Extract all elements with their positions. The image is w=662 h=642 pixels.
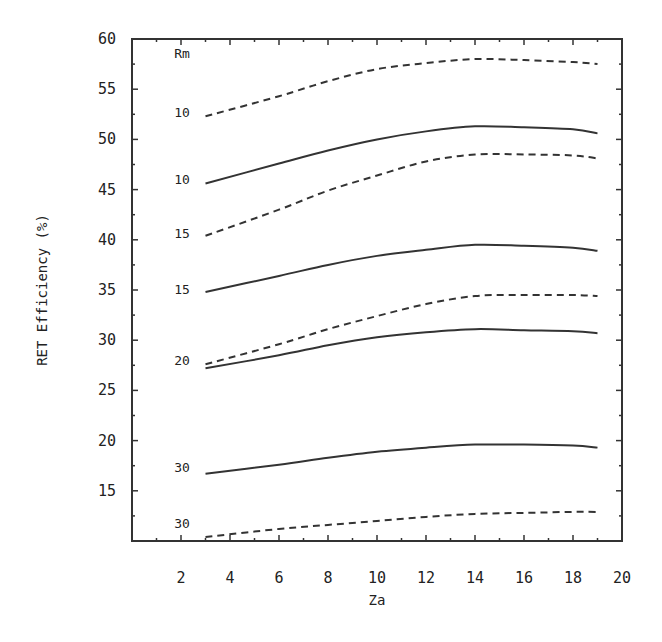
x-tick-label: 20: [613, 569, 631, 587]
y-axis-tick-labels: 15202530354045505560: [98, 30, 116, 500]
x-tick-label: 18: [564, 569, 582, 587]
series-line-rm-30-solid: [206, 444, 598, 473]
y-tick-label: 60: [98, 30, 116, 48]
series-line-rm-15-solid: [206, 245, 598, 292]
curve-label: 20: [174, 353, 190, 368]
legend-title: Rm: [174, 46, 190, 61]
curve-labels: Rm10101515203030: [174, 46, 190, 531]
series-line-rm-30-dashed: [206, 512, 598, 537]
y-tick-label: 20: [98, 432, 116, 450]
x-tick-label: 2: [176, 569, 185, 587]
x-tick-label: 6: [274, 569, 283, 587]
curve-label: 10: [174, 105, 190, 120]
efficiency-chart: 15202530354045505560 2468101214161820 Rm…: [0, 0, 662, 642]
x-tick-label: 14: [466, 569, 484, 587]
y-tick-label: 15: [98, 482, 116, 500]
curve-label: 15: [174, 226, 190, 241]
plot-frame: [132, 39, 622, 541]
y-tick-label: 55: [98, 80, 116, 98]
x-axis-title: Za: [369, 592, 386, 608]
x-tick-label: 16: [515, 569, 533, 587]
x-axis-tick-labels: 2468101214161820: [176, 569, 631, 587]
y-tick-label: 50: [98, 130, 116, 148]
x-tick-label: 8: [323, 569, 332, 587]
series-line-rm-15-dashed: [206, 154, 598, 236]
x-tick-label: 4: [225, 569, 234, 587]
series-line-rm-10-solid: [206, 126, 598, 183]
series-line-rm-10-dashed: [206, 59, 598, 116]
curve-label: 30: [174, 460, 190, 475]
data-series: [206, 59, 598, 537]
curve-label: 30: [174, 516, 190, 531]
x-tick-label: 10: [368, 569, 386, 587]
y-tick-label: 30: [98, 331, 116, 349]
y-tick-label: 45: [98, 181, 116, 199]
curve-label: 15: [174, 282, 190, 297]
y-tick-label: 25: [98, 381, 116, 399]
y-tick-label: 40: [98, 231, 116, 249]
x-tick-label: 12: [417, 569, 435, 587]
axis-ticks: [132, 39, 622, 541]
y-tick-label: 35: [98, 281, 116, 299]
curve-label: 10: [174, 172, 190, 187]
y-axis-title: RET Efficiency (%): [34, 214, 50, 366]
